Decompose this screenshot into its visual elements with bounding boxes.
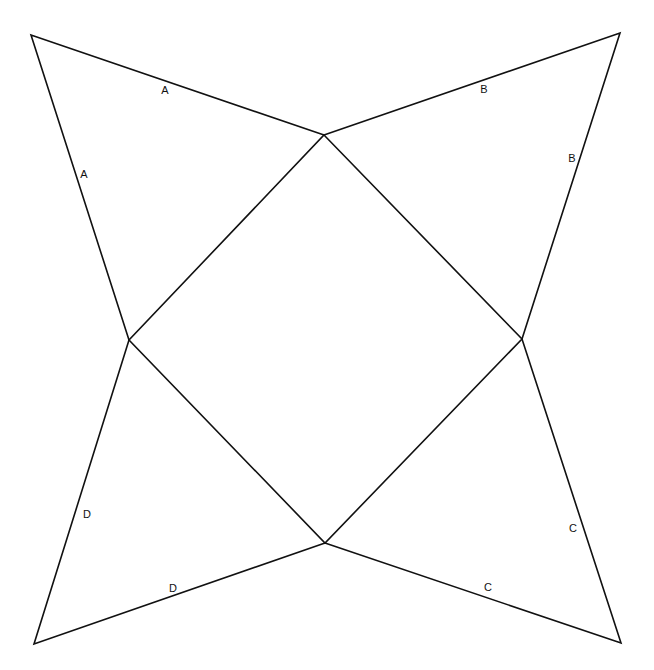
flap-d <box>34 340 325 644</box>
edge-label-b-top: B <box>480 84 487 95</box>
edge-label-c-right: C <box>569 523 577 534</box>
flap-a <box>31 35 324 340</box>
flap-b <box>324 33 620 339</box>
edge-label-a-left: A <box>80 169 87 180</box>
edge-label-d-bottom: D <box>169 583 177 594</box>
edge-label-a-top: A <box>161 85 168 96</box>
edge-label-b-right: B <box>568 153 575 164</box>
pyramid-net-diagram <box>0 0 654 670</box>
flap-c <box>325 339 621 643</box>
square-base <box>129 135 522 543</box>
edge-label-d-left: D <box>83 509 91 520</box>
edge-label-c-bottom: C <box>484 582 492 593</box>
